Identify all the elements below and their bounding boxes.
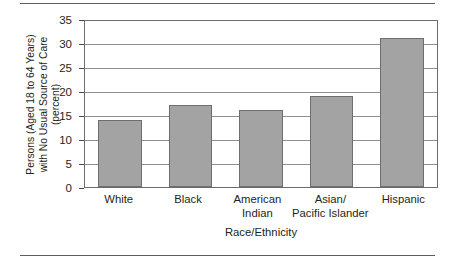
top-divider-rule <box>20 3 435 4</box>
bar-hispanic[interactable] <box>380 38 424 187</box>
bar-slot-0 <box>85 21 155 187</box>
x-tick-label-line: Black <box>153 192 222 206</box>
bar-slot-3 <box>296 21 366 187</box>
y-tick-mark-0 <box>79 188 84 189</box>
y-tick-label-25: 25 <box>0 62 72 74</box>
x-tick-label-line: Asian/ <box>292 192 369 206</box>
y-tick-label-35: 35 <box>0 14 72 26</box>
y-tick-label-0: 0 <box>0 182 72 194</box>
x-axis-title: Race/Ethnicity <box>84 226 438 238</box>
bar-asian-pacific-islander[interactable] <box>310 96 354 187</box>
x-tick-label-black: Black <box>153 192 222 220</box>
y-tick-label-5: 5 <box>0 158 72 170</box>
x-tick-label-asian-pacific-islander: Asian/Pacific Islander <box>292 192 369 220</box>
bar-black[interactable] <box>169 105 213 187</box>
bar-series <box>85 21 437 187</box>
bar-american-indian[interactable] <box>239 110 283 187</box>
x-tick-label-line: Indian <box>223 206 292 220</box>
y-tick-label-20: 20 <box>0 86 72 98</box>
x-tick-label-line: American <box>223 192 292 206</box>
bar-slot-1 <box>155 21 225 187</box>
plot-area <box>84 20 438 188</box>
bar-slot-4 <box>367 21 437 187</box>
y-axis-ticks: 05101520253035 <box>0 20 84 188</box>
figure: Persons (Aged 18 to 64 Years) with No Us… <box>0 0 455 264</box>
x-tick-label-white: White <box>84 192 153 220</box>
x-tick-label-line: Pacific Islander <box>292 206 369 220</box>
y-tick-label-15: 15 <box>0 110 72 122</box>
x-tick-label-hispanic: Hispanic <box>369 192 438 220</box>
bar-white[interactable] <box>98 120 142 187</box>
x-axis-tick-labels: WhiteBlackAmericanIndianAsian/Pacific Is… <box>84 192 438 220</box>
bottom-divider-rule <box>20 255 435 256</box>
bar-slot-2 <box>226 21 296 187</box>
x-tick-label-line: Hispanic <box>369 192 438 206</box>
x-tick-label-american-indian: AmericanIndian <box>223 192 292 220</box>
y-tick-label-30: 30 <box>0 38 72 50</box>
x-tick-label-line: White <box>84 192 153 206</box>
y-tick-label-10: 10 <box>0 134 72 146</box>
